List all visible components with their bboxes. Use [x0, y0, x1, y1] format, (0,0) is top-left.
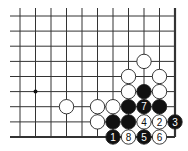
move-number: 6: [157, 132, 163, 143]
black-stone-move-5: 5: [137, 130, 151, 144]
white-stone-move-6: 6: [152, 130, 166, 144]
move-number: 7: [141, 101, 147, 112]
black-stone: [121, 115, 135, 129]
white-stone-move-2: 2: [152, 115, 166, 129]
black-stone-move-7: 7: [137, 100, 151, 114]
move-number: 3: [172, 117, 178, 128]
white-stone: [90, 115, 104, 129]
black-stone: [152, 100, 166, 114]
go-board: 74231856: [0, 0, 188, 151]
black-stone: [106, 115, 120, 129]
star-point: [34, 90, 38, 94]
white-stone: [152, 84, 166, 98]
move-number: 5: [141, 132, 147, 143]
black-stone: [137, 84, 151, 98]
white-stone: [121, 84, 135, 98]
white-stone: [106, 100, 120, 114]
black-stone: [121, 100, 135, 114]
move-number: 2: [157, 117, 163, 128]
white-stone: [152, 69, 166, 83]
black-stone-move-3: 3: [168, 115, 182, 129]
black-stone-move-1: 1: [106, 130, 120, 144]
star-points: [34, 90, 38, 94]
move-number: 1: [110, 132, 116, 143]
white-stone-move-4: 4: [137, 115, 151, 129]
move-number: 4: [141, 117, 147, 128]
move-number: 8: [126, 132, 132, 143]
white-stone-move-8: 8: [121, 130, 135, 144]
white-stone: [90, 100, 104, 114]
white-stone: [137, 54, 151, 68]
stones-layer: 74231856: [59, 54, 182, 144]
white-stone: [59, 100, 73, 114]
white-stone: [121, 69, 135, 83]
